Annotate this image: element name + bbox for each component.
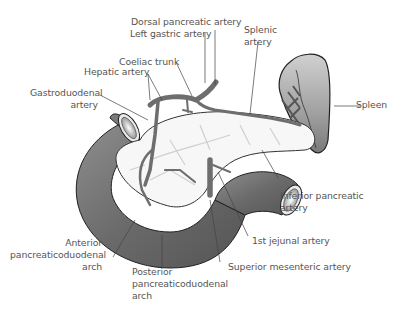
label-posterior-pancreaticoduodenal-arch: Posterior pancreaticoduodenal arch [132,266,228,302]
label-line: Inferior pancreatic [280,190,364,202]
label-line: pancreaticoduodenal [132,278,228,290]
label-line: Gastroduodenal [30,87,98,99]
label-line: Posterior [132,266,228,278]
label-left-gastric-artery: Left gastric artery [130,28,211,40]
label-line: artery [280,202,364,214]
label-spleen: Spleen [356,99,387,111]
label-hepatic-artery: Hepatic artery [84,66,149,78]
label-superior-mesenteric-artery: Superior mesenteric artery [228,261,351,273]
label-line: artery [30,99,98,111]
label-line: Splenic [244,24,277,36]
label-dorsal-pancreatic-artery: Dorsal pancreatic artery [131,16,242,28]
label-line: artery [244,36,277,48]
label-line: arch [132,290,228,302]
label-line: pancreaticoduodenal [10,249,102,261]
label-line: Anterior [10,237,102,249]
label-inferior-pancreatic-artery: Inferior pancreatic artery [280,190,364,214]
label-first-jejunal-artery: 1st jejunal artery [252,235,330,247]
label-anterior-pancreaticoduodenal-arch: Anterior pancreaticoduodenal arch [10,237,102,273]
label-gastroduodenal-artery: Gastroduodenal artery [30,87,98,111]
label-splenic-artery: Splenic artery [244,24,277,48]
label-line: arch [10,261,102,273]
